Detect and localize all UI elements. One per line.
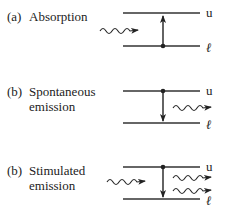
incoming-photon-wave-icon — [107, 180, 145, 185]
incoming-photon-wave-icon — [100, 29, 138, 34]
emitted-photon-wave-icon — [173, 176, 211, 181]
upper-level-label: u — [206, 83, 213, 98]
lower-level-label: ℓ — [206, 193, 211, 208]
stimulated-emission-diagram — [107, 165, 211, 199]
lower-level-label: ℓ — [206, 40, 211, 55]
upper-level-label: u — [206, 159, 213, 174]
lower-level-label: ℓ — [206, 117, 211, 132]
electron-dot — [161, 165, 166, 170]
energy-level-diagrams — [0, 0, 227, 214]
upper-level-label: u — [206, 5, 213, 20]
electron-dot — [161, 89, 166, 94]
absorption-diagram — [100, 13, 200, 48]
electron-dot — [161, 44, 166, 49]
spontaneous-emission-diagram — [123, 89, 211, 123]
emitted-photon-wave-icon — [173, 106, 211, 111]
